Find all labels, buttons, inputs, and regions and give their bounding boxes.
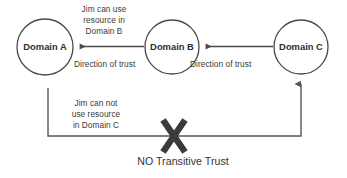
annotation-jim-can-use: Jim can use resource in Domain B (66, 4, 142, 37)
annotation-direction-of-trust-bc: Direction of trust (190, 59, 280, 70)
transitive-trust-diagram: Domain A Domain B Domain C Jim can use r… (0, 0, 347, 178)
diagram-canvas: Domain A Domain B Domain C (0, 0, 347, 178)
node-domain-c-label: Domain C (279, 41, 323, 52)
node-domain-a-label: Domain A (23, 41, 67, 52)
annotation-jim-can-not-use: Jim can not use resource in Domain C (57, 98, 135, 131)
caption-no-transitive-trust: NO Transitive Trust (113, 155, 253, 169)
annotation-direction-of-trust-ab: Direction of trust (74, 59, 164, 70)
node-domain-b-label: Domain B (150, 41, 194, 52)
